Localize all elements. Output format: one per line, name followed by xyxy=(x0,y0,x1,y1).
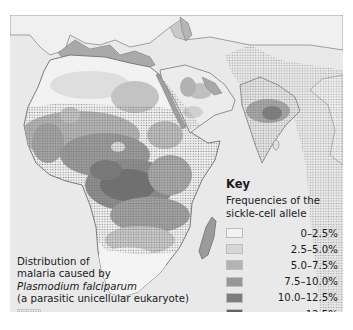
malaria-legend-line2: malaria caused by xyxy=(17,268,227,280)
key-label: 0–2.5% xyxy=(243,228,343,239)
key-row: 5.0–7.5% xyxy=(226,257,343,273)
key-row: >12.5% xyxy=(226,306,343,312)
key-subtitle: Frequencies of the sickle-cell allele xyxy=(226,195,343,220)
sri-lanka xyxy=(273,140,279,150)
malaria-pattern-swatch xyxy=(17,309,41,312)
key-subtitle-line1: Frequencies of the xyxy=(226,195,343,208)
key-label: 7.5–10.0% xyxy=(243,276,343,287)
swatch-10.0-12.5 xyxy=(226,293,243,303)
legend-key: Key Frequencies of the sickle-cell allel… xyxy=(226,177,343,312)
swatch-over-12.5 xyxy=(226,309,243,312)
key-row: 0–2.5% xyxy=(226,225,343,241)
key-row: 2.5–5.0% xyxy=(226,241,343,257)
map-frame: Key Frequencies of the sickle-cell allel… xyxy=(10,15,343,312)
key-row: 7.5–10.0% xyxy=(226,274,343,290)
swatch-2.5-5.0 xyxy=(226,244,243,254)
malaria-legend-species: Plasmodium falciparum xyxy=(17,281,227,293)
key-row: 10.0–12.5% xyxy=(226,290,343,306)
swatch-0-2.5 xyxy=(226,228,243,238)
key-label: 5.0–7.5% xyxy=(243,260,343,271)
key-label: 2.5–5.0% xyxy=(243,244,343,255)
malaria-legend-line1: Distribution of xyxy=(17,256,227,268)
malaria-legend-line4: (a parasitic unicellular eukaryote) xyxy=(17,293,227,305)
key-title: Key xyxy=(226,177,343,191)
key-label: 10.0–12.5% xyxy=(243,292,343,303)
key-subtitle-line2: sickle-cell allele xyxy=(226,208,343,221)
swatch-7.5-10.0 xyxy=(226,277,243,287)
swatch-5.0-7.5 xyxy=(226,260,243,270)
key-label: >12.5% xyxy=(243,309,343,312)
malaria-legend: Distribution of malaria caused by Plasmo… xyxy=(17,256,227,312)
